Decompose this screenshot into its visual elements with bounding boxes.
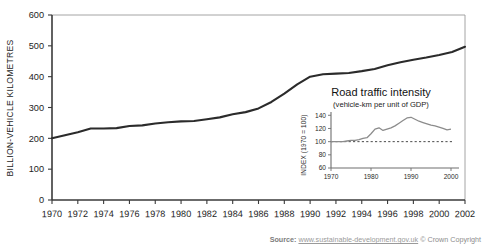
inset-x-tick-label: 1990 bbox=[404, 173, 419, 180]
road-traffic-chart: 0100200300400500600 19701972197419761978… bbox=[0, 0, 487, 247]
inset-x-tick-label: 1980 bbox=[364, 173, 379, 180]
x-tick-label: 1994 bbox=[351, 209, 372, 219]
inset-x-tick-label: 2000 bbox=[444, 173, 459, 180]
y-tick-label: 500 bbox=[29, 41, 44, 51]
y-tick-label: 0 bbox=[39, 195, 44, 205]
inset-y-tick-label: 100 bbox=[315, 138, 326, 145]
intensity-line bbox=[331, 117, 451, 141]
x-tick-label: 2000 bbox=[429, 209, 450, 219]
y-axis: 0100200300400500600 bbox=[29, 10, 52, 205]
y-tick-label: 200 bbox=[29, 134, 44, 144]
inset-subtitle: (vehicle-km per unit of GDP) bbox=[333, 100, 429, 109]
x-tick-label: 1990 bbox=[300, 209, 321, 219]
x-axis: 1970197219741976197819801982198419861988… bbox=[42, 200, 476, 219]
x-tick-label: 1976 bbox=[119, 209, 140, 219]
x-tick-label: 2002 bbox=[455, 209, 476, 219]
x-tick-label: 1974 bbox=[93, 209, 114, 219]
inset-y-axis-title: INDEX (1970 = 100) bbox=[300, 114, 308, 175]
inset-y-tick-label: 140 bbox=[315, 112, 326, 119]
source-label: Source: bbox=[270, 235, 297, 244]
source-copyright: © Crown Copyright bbox=[420, 235, 481, 244]
x-tick-label: 1980 bbox=[171, 209, 192, 219]
y-tick-label: 600 bbox=[29, 10, 44, 20]
x-tick-label: 1998 bbox=[403, 209, 424, 219]
x-tick-label: 1972 bbox=[67, 209, 88, 219]
x-tick-label: 1978 bbox=[145, 209, 166, 219]
chart-page: 0100200300400500600 19701972197419761978… bbox=[0, 0, 487, 247]
y-tick-label: 100 bbox=[29, 164, 44, 174]
x-tick-label: 1986 bbox=[248, 209, 269, 219]
x-tick-label: 1992 bbox=[326, 209, 347, 219]
x-tick-label: 1996 bbox=[377, 209, 398, 219]
inset-y-tick-label: 80 bbox=[319, 151, 327, 158]
inset-chart: Road traffic intensity (vehicle-km per u… bbox=[300, 86, 459, 180]
y-tick-label: 400 bbox=[29, 72, 44, 82]
inset-title: Road traffic intensity bbox=[331, 86, 431, 98]
y-tick-label: 300 bbox=[29, 103, 44, 113]
source-url[interactable]: www.sustainable-development.gov.uk bbox=[298, 235, 418, 244]
source-note: Source: www.sustainable-development.gov.… bbox=[270, 235, 481, 244]
y-axis-title: BILLION-VEHICLE KILOMETRES bbox=[5, 40, 15, 177]
x-tick-label: 1988 bbox=[274, 209, 295, 219]
inset-y-tick-label: 120 bbox=[315, 125, 326, 132]
inset-y-tick-label: 60 bbox=[319, 164, 327, 171]
inset-x-tick-label: 1970 bbox=[324, 173, 339, 180]
x-tick-label: 1984 bbox=[222, 209, 243, 219]
x-tick-label: 1982 bbox=[197, 209, 218, 219]
x-tick-label: 1970 bbox=[42, 209, 63, 219]
